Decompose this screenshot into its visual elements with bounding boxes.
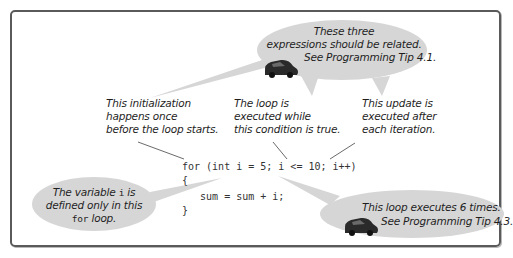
bottom-bubble-tip-link[interactable]: See Programming Tip 4.3. bbox=[381, 215, 513, 228]
init-callout-line3: before the loop starts. bbox=[106, 123, 218, 136]
left-bubble-line2: defined only in this bbox=[38, 199, 150, 212]
condition-callout-line1: The loop is bbox=[234, 97, 289, 110]
left-bubble-line1: The variable i is bbox=[38, 186, 150, 199]
update-callout-line1: This update is bbox=[362, 97, 433, 110]
init-callout-line1: This initialization bbox=[106, 97, 191, 110]
update-callout-line2: executed after bbox=[362, 110, 436, 123]
top-bubble-tip-link[interactable]: See Programming Tip 4.1. bbox=[304, 51, 436, 64]
condition-callout-line3: this condition is true. bbox=[234, 123, 340, 136]
top-bubble-line1: These three bbox=[270, 25, 418, 38]
top-bubble-line2: expressions should be related. bbox=[262, 38, 426, 51]
update-callout-line3: each iteration. bbox=[362, 123, 435, 136]
left-bubble-var-code: i bbox=[119, 187, 125, 198]
left-bubble-suffix: is bbox=[127, 186, 135, 198]
code-line-1: for (int i = 5; i <= 10; i++) bbox=[182, 160, 357, 174]
code-line-2: { bbox=[182, 174, 188, 188]
left-bubble-for-code: for bbox=[72, 213, 89, 224]
init-callout-line2: happens once bbox=[106, 110, 177, 123]
bottom-bubble-line1: This loop executes 6 times. bbox=[362, 201, 501, 214]
left-bubble-loop-word: loop. bbox=[91, 212, 116, 224]
left-bubble-prefix: The variable bbox=[53, 186, 116, 198]
left-bubble-line3: for loop. bbox=[38, 212, 150, 225]
code-line-3: sum = sum + i; bbox=[182, 190, 284, 204]
condition-callout-line2: executed while bbox=[234, 110, 311, 123]
code-line-4: } bbox=[182, 204, 188, 218]
pointer-lines bbox=[138, 142, 355, 159]
